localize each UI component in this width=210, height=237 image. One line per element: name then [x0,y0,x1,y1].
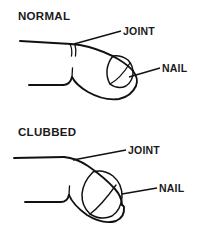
clubbed-nail-label: NAIL [159,182,185,194]
clubbed-finger-dorsal-proximal [14,157,64,158]
panel-normal-title: NORMAL [18,10,70,22]
normal-nail-label: NAIL [162,62,188,74]
clubbed-volar-crease-tick [69,186,70,195]
panel-clubbed-title: CLUBBED [18,126,76,138]
normal-joint-label: JOINT [123,25,155,37]
clubbed-joint-label: JOINT [128,144,160,156]
normal-volar-crease-tick [72,68,73,77]
finger-clubbing-diagram: NORMAL JOINT NAIL CLUBBED [0,0,210,237]
